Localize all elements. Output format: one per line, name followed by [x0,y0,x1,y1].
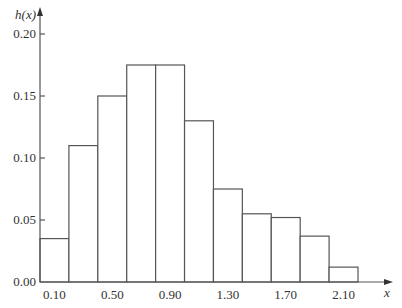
histogram-bar [213,189,242,282]
y-axis-arrow-icon [37,7,43,16]
histogram-bar [242,214,271,282]
histogram-chart: 0.000.050.100.150.20 0.100.500.901.301.7… [0,0,402,308]
x-tick-label: 2.10 [332,287,355,302]
y-tick-label: 0.00 [13,274,36,289]
bars-group [40,65,358,282]
x-tick-label: 1.30 [217,287,240,302]
x-ticks-group: 0.100.500.901.301.702.10 [43,287,355,302]
histogram-bar [329,267,358,282]
y-tick-label: 0.10 [13,150,36,165]
histogram-bar [185,121,214,282]
histogram-bar [156,65,185,282]
histogram-bar [98,96,127,282]
y-tick-label: 0.20 [13,26,36,41]
x-tick-label: 0.10 [43,287,66,302]
histogram-bar [40,239,69,282]
y-axis-label: h(x) [15,7,36,22]
x-tick-label: 0.90 [159,287,182,302]
histogram-bar [271,218,300,282]
x-tick-label: 1.70 [274,287,297,302]
x-axis-label: x [383,285,390,300]
y-tick-label: 0.05 [13,212,36,227]
histogram-bar [69,146,98,282]
x-tick-label: 0.50 [101,287,124,302]
y-tick-label: 0.15 [13,88,36,103]
histogram-bar [127,65,156,282]
histogram-bar [300,236,329,282]
